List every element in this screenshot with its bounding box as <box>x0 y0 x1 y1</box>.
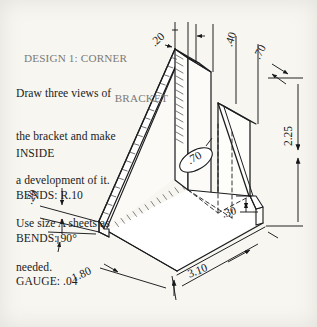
dim-overall-height <box>266 78 303 226</box>
upright-panel <box>188 58 211 200</box>
instruction-line-1: Draw three views of <box>16 87 168 101</box>
spec-line-bend-angle: BENDS: 90° <box>16 232 146 246</box>
spec-line-inside: INSIDE <box>16 147 146 161</box>
base-right-turnup <box>256 207 263 225</box>
specification-block: INSIDE BENDS: R.10 BENDS: 90° GAUGE: .04 <box>16 118 146 318</box>
drawing-sheet: DESIGN 1: CORNER BRACKET Draw three view… <box>0 0 317 327</box>
dimension-label-overall-height: 2.25 <box>282 126 294 146</box>
